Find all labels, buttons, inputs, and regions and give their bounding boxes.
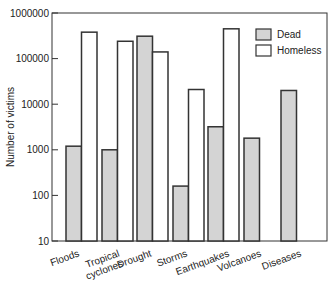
svg-text:Diseases: Diseases — [260, 248, 302, 272]
x-tick-label: Diseases — [260, 248, 302, 272]
y-tick-label: 100 — [32, 190, 49, 201]
y-axis: 101001000100001000001000000 — [10, 8, 58, 247]
y-tick-label: 1000 — [27, 144, 50, 155]
bar-homeless-storms — [189, 90, 205, 241]
bar-chart: 101001000100001000001000000 FloodsTropic… — [0, 0, 330, 284]
bar-homeless-tropical-cyclones — [118, 41, 134, 241]
legend-label-dead: Dead — [277, 29, 301, 40]
y-axis-title: Number of victims — [5, 87, 16, 167]
x-tick-label: Floods — [49, 248, 81, 269]
y-tick-label: 10 — [38, 236, 50, 247]
bar-dead-storms — [173, 186, 189, 241]
legend: DeadHomeless — [256, 29, 321, 56]
legend-label-homeless: Homeless — [277, 45, 321, 56]
legend-swatch-dead — [256, 29, 271, 40]
bar-dead-floods — [66, 146, 82, 241]
svg-text:Floods: Floods — [49, 248, 81, 269]
y-tick-label: 1000000 — [10, 8, 49, 19]
bar-dead-volcanoes — [244, 138, 260, 241]
bar-dead-tropical-cyclones — [102, 150, 118, 241]
x-tick-label: Drought — [115, 247, 152, 270]
bar-dead-diseases — [281, 90, 297, 241]
bars — [66, 29, 297, 241]
bar-homeless-floods — [82, 32, 98, 241]
bar-dead-drought — [137, 36, 153, 241]
svg-text:Drought: Drought — [115, 247, 152, 270]
y-tick-label: 100000 — [16, 53, 50, 64]
bar-dead-earthquakes — [208, 127, 224, 241]
bar-homeless-drought — [153, 52, 169, 241]
y-tick-label: 10000 — [21, 99, 49, 110]
x-axis-labels: FloodsTropicalcyclonesDroughtStormsEarth… — [49, 247, 303, 281]
bar-homeless-earthquakes — [224, 29, 240, 241]
legend-swatch-homeless — [256, 45, 271, 56]
